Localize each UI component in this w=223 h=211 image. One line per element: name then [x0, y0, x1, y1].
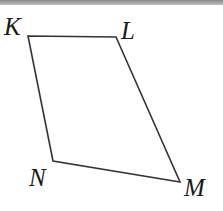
vertex-label-l: L — [120, 17, 135, 44]
vertex-label-m: M — [183, 174, 206, 201]
vertex-label-n: N — [28, 164, 47, 191]
vertex-label-k: K — [3, 13, 22, 40]
diagram-canvas: K L M N — [0, 0, 223, 211]
quadrilateral-klmn — [28, 36, 180, 182]
quadrilateral-figure: K L M N — [0, 0, 223, 211]
